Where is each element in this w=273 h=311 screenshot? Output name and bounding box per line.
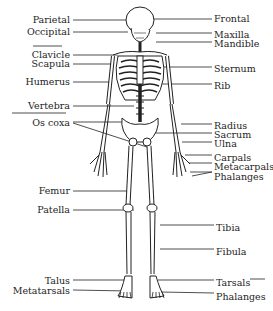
label-os-coxa: Os coxa [32,118,70,128]
label-scapula: Scapula [32,59,70,69]
label-tibia: Tibia [216,223,240,233]
label-fibula: Fibula [216,247,247,257]
label-ulna: Ulna [214,139,237,149]
label-phalanges-foot: Phalanges [216,292,266,302]
label-vertebra: Vertebra [28,101,70,111]
label-humerus: Humerus [25,77,70,87]
label-phalanges-hand: Phalanges [214,172,264,182]
label-parietal: Parietal [33,15,70,25]
label-femur: Femur [39,186,70,196]
label-tarsals: Tarsals [216,278,250,288]
label-sternum: Sternum [214,64,256,74]
label-frontal: Frontal [214,14,250,24]
label-occipital: Occipital [27,27,70,37]
label-metatarsals: Metatarsals [13,286,70,296]
label-mandible: Mandible [214,39,259,49]
skeleton [90,7,190,298]
label-patella: Patella [37,205,70,215]
label-rib: Rib [214,81,230,91]
